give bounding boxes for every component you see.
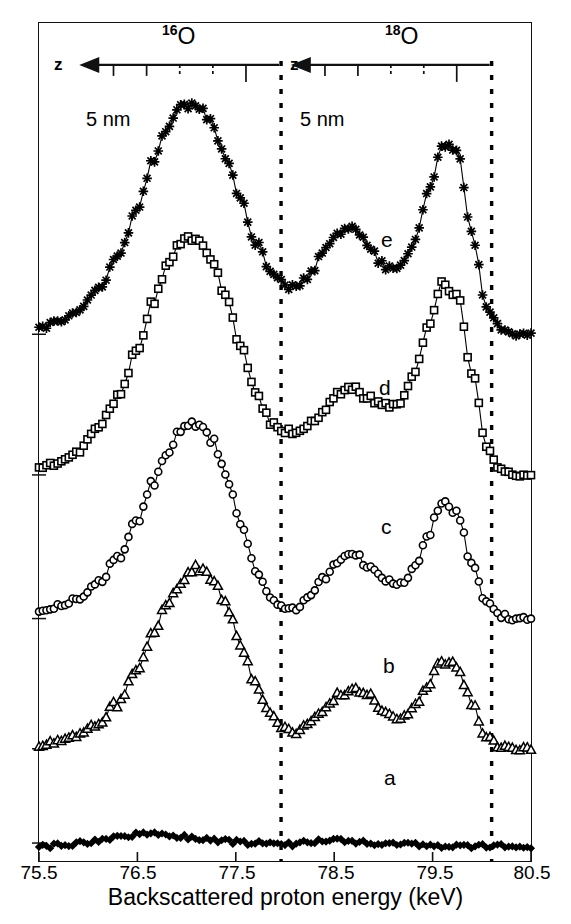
series-a xyxy=(35,828,535,852)
datapoint-c-36 xyxy=(170,441,177,448)
datapoint-d-51 xyxy=(226,298,233,305)
datapoint-c-32 xyxy=(155,468,162,475)
datapoint-b-28 xyxy=(139,652,148,660)
series-line-d xyxy=(39,236,531,476)
datapoint-e-27 xyxy=(135,202,145,212)
datapoint-e-24 xyxy=(124,228,134,238)
datapoint-b-118 xyxy=(474,717,483,725)
datapoint-c-102 xyxy=(416,557,423,564)
datapoint-e-47 xyxy=(209,123,219,133)
datapoint-d-52 xyxy=(229,314,236,321)
datapoint-d-55 xyxy=(241,347,248,354)
datapoint-e-114 xyxy=(459,183,469,193)
datapoint-c-50 xyxy=(222,471,229,478)
datapoint-d-103 xyxy=(419,339,426,346)
datapoint-e-102 xyxy=(414,223,424,233)
datapoint-c-18 xyxy=(103,573,110,580)
datapoint-b-29 xyxy=(143,642,152,650)
datapoint-c-107 xyxy=(434,507,441,514)
datapoint-e-31 xyxy=(150,157,160,167)
datapoint-e-44 xyxy=(198,104,208,114)
datapoint-c-57 xyxy=(248,555,255,562)
datapoint-d-33 xyxy=(159,276,166,283)
datapoint-e-56 xyxy=(243,217,253,227)
datapoint-d-122 xyxy=(490,456,497,463)
datapoint-e-28 xyxy=(139,186,149,196)
datapoint-d-59 xyxy=(255,392,262,399)
datapoint-d-61 xyxy=(263,409,270,416)
datapoint-d-27 xyxy=(136,345,143,352)
datapoint-e-32 xyxy=(153,146,163,156)
datapoint-c-132 xyxy=(528,615,535,622)
datapoint-c-77 xyxy=(323,576,330,583)
datapoint-e-103 xyxy=(418,205,428,215)
datapoint-c-112 xyxy=(453,507,460,514)
datapoint-c-27 xyxy=(136,518,143,525)
datapoint-d-24 xyxy=(125,370,132,377)
datapoint-c-28 xyxy=(140,503,147,510)
datapoint-b-56 xyxy=(243,656,252,664)
datapoint-d-32 xyxy=(155,285,162,292)
datapoint-c-22 xyxy=(118,555,125,562)
datapoint-e-105 xyxy=(426,182,436,192)
datapoint-d-119 xyxy=(479,429,486,436)
depth-arrowhead-1 xyxy=(291,57,311,73)
datapoint-e-29 xyxy=(142,174,152,184)
datapoint-c-86 xyxy=(356,551,363,558)
datapoint-d-44 xyxy=(200,242,207,249)
datapoint-d-107 xyxy=(434,290,441,297)
dashed-reference-lines xyxy=(281,61,492,861)
datapoint-d-118 xyxy=(475,399,482,406)
datapoint-e-51 xyxy=(224,159,234,169)
datapoint-d-113 xyxy=(457,297,464,304)
datapoint-e-18 xyxy=(101,275,111,285)
datapoint-e-60 xyxy=(258,247,268,257)
datapoint-e-74 xyxy=(310,266,320,276)
datapoint-b-60 xyxy=(258,695,267,703)
datapoint-c-74 xyxy=(311,587,318,594)
datapoint-c-47 xyxy=(211,435,218,442)
datapoint-e-115 xyxy=(463,212,473,222)
datapoint-c-117 xyxy=(472,564,479,571)
depth-scale-group xyxy=(79,57,489,82)
datapoint-c-114 xyxy=(460,529,467,536)
datapoint-e-92 xyxy=(377,256,387,266)
datapoint-e-107 xyxy=(433,152,443,162)
depth-arrowhead-0 xyxy=(79,57,99,73)
datapoint-c-118 xyxy=(475,578,482,585)
datapoint-e-116 xyxy=(467,226,477,236)
figure-canvas: 16O 18O z z 5 nm 5 nm e d c b a 75.5 76.… xyxy=(0,0,571,924)
spectra-curves xyxy=(34,98,536,852)
series-c xyxy=(36,418,535,624)
datapoint-e-72 xyxy=(303,275,313,285)
datapoint-e-22 xyxy=(116,248,126,258)
datapoint-d-23 xyxy=(121,380,128,387)
datapoint-e-46 xyxy=(206,114,216,124)
datapoint-e-49 xyxy=(217,144,227,154)
datapoint-e-55 xyxy=(239,198,249,208)
datapoint-e-52 xyxy=(228,170,238,180)
datapoint-e-119 xyxy=(478,290,488,300)
datapoint-c-24 xyxy=(125,533,132,540)
datapoint-c-49 xyxy=(218,460,225,467)
datapoint-e-112 xyxy=(452,146,462,156)
datapoint-c-99 xyxy=(405,574,412,581)
datapoint-c-106 xyxy=(431,514,438,521)
plot-overlay xyxy=(0,0,571,924)
datapoint-b-59 xyxy=(254,685,263,693)
datapoint-c-51 xyxy=(226,481,233,488)
datapoint-e-36 xyxy=(168,113,178,123)
datapoint-e-35 xyxy=(165,122,175,132)
datapoint-d-101 xyxy=(412,368,419,375)
datapoint-d-106 xyxy=(431,307,438,314)
datapoint-d-22 xyxy=(118,391,125,398)
datapoint-c-29 xyxy=(144,491,151,498)
datapoint-c-55 xyxy=(241,526,248,533)
series-b xyxy=(35,560,536,753)
datapoint-d-77 xyxy=(323,406,330,413)
datapoint-c-35 xyxy=(166,449,173,456)
datapoint-c-70 xyxy=(296,603,303,610)
datapoint-d-89 xyxy=(367,392,374,399)
datapoint-c-23 xyxy=(121,546,128,553)
datapoint-b-18 xyxy=(102,713,111,721)
